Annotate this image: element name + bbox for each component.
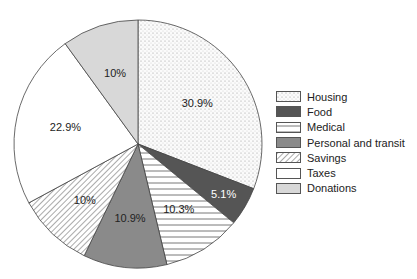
legend-item-savings: Savings bbox=[276, 150, 405, 165]
slice-label: 22.9% bbox=[50, 121, 81, 133]
legend-item-medical: Medical bbox=[276, 120, 405, 135]
slice-label: 10.9% bbox=[114, 212, 145, 224]
slice-label: 30.9% bbox=[182, 97, 213, 109]
legend-item-donations: Donations bbox=[276, 181, 405, 196]
slice-label: 10% bbox=[104, 67, 126, 79]
legend-item-food: Food bbox=[276, 104, 405, 119]
legend: Housing Food Medical Personal and transi… bbox=[276, 89, 405, 196]
slice-label: 10% bbox=[74, 194, 96, 206]
slice-label: 5.1% bbox=[211, 188, 236, 200]
slice-label: 10.3% bbox=[163, 203, 194, 215]
legend-item-housing: Housing bbox=[276, 89, 405, 104]
legend-item-taxes: Taxes bbox=[276, 165, 405, 180]
legend-item-personal: Personal and transit bbox=[276, 135, 405, 150]
